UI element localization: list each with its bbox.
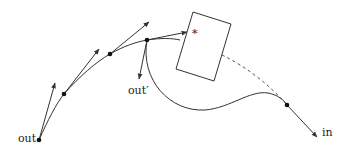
in-arrow bbox=[287, 105, 317, 137]
dashed-path bbox=[222, 55, 287, 105]
tangent-arrow-3 bbox=[110, 22, 149, 54]
node-p3 bbox=[108, 52, 113, 57]
tangent-arrow-2 bbox=[64, 49, 99, 94]
node-p4 bbox=[145, 38, 150, 43]
node-in bbox=[285, 103, 290, 108]
diagram-svg: out out′ in * bbox=[0, 0, 349, 152]
obstacle-box bbox=[176, 12, 231, 81]
path-diagram: out out′ in * bbox=[0, 0, 349, 152]
label-star: * bbox=[192, 27, 198, 40]
node-out bbox=[37, 138, 42, 143]
label-in: in bbox=[322, 126, 333, 139]
node-p2 bbox=[62, 92, 67, 97]
label-out-prime: out′ bbox=[128, 84, 149, 97]
label-out: out bbox=[18, 132, 37, 145]
